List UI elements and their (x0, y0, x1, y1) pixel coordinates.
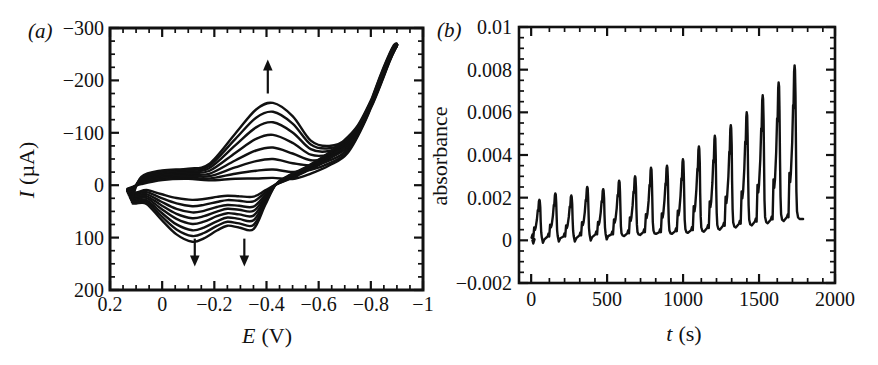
x-tick-label: −0.8 (353, 293, 389, 315)
panel-a: (a) −300−200−10001002000.20−0.2−0.4−0.6−… (14, 17, 434, 348)
x-tick-label: 0 (157, 293, 167, 315)
panel-a-cv-curves (127, 44, 397, 242)
y-tick-label: 100 (74, 227, 104, 249)
panel-b-absorbance-trace-group (532, 65, 804, 243)
growth-arrow-up-head (263, 59, 273, 70)
y-tick-label: −300 (63, 17, 104, 39)
panel-b-tag: (b) (437, 18, 462, 42)
y-tick-label: −0.002 (456, 272, 512, 294)
x-tick-label: 2000 (815, 288, 855, 310)
y-tick-label: 0 (94, 174, 104, 196)
y-tick-label: −100 (63, 122, 104, 144)
panel-a-x-axis-title: E(V) (241, 323, 292, 348)
panel-a-tick-labels: −300−200−10001002000.20−0.2−0.4−0.6−0.8−… (63, 17, 434, 315)
y-tick-label: 0.008 (467, 59, 512, 81)
absorbance-trace (532, 65, 804, 243)
growth-arrow-down-head (240, 255, 250, 266)
y-tick-label: 0.01 (477, 16, 512, 38)
panel-b: (b) 0.010.0080.0060.0040.0020−0.00205001… (427, 16, 855, 346)
panel-b-y-axis-title: absorbance (427, 107, 452, 206)
x-tick-label: −1 (412, 293, 433, 315)
x-tick-label: 1500 (739, 288, 779, 310)
y-tick-label: 0 (502, 229, 512, 251)
growth-arrow-down-head (190, 255, 200, 266)
x-tick-label: 500 (592, 288, 622, 310)
x-tick-label: −0.4 (248, 293, 284, 315)
x-tick-label: −0.6 (301, 293, 337, 315)
panel-b-tick-marks (519, 27, 835, 283)
two-panel-figure: (a) −300−200−10001002000.20−0.2−0.4−0.6−… (0, 0, 878, 365)
y-tick-label: −200 (63, 69, 104, 91)
x-tick-label: 0.2 (98, 293, 123, 315)
figure-canvas: (a) −300−200−10001002000.20−0.2−0.4−0.6−… (0, 0, 878, 365)
panel-b-frame (519, 27, 835, 283)
x-tick-label: 0 (526, 288, 536, 310)
y-tick-label: 0.006 (467, 101, 512, 123)
panel-b-x-axis-title: t(s) (666, 321, 701, 346)
y-tick-label: 0.002 (467, 187, 512, 209)
x-tick-label: 1000 (663, 288, 703, 310)
panel-a-y-axis-title: I(µA) (14, 142, 39, 200)
y-tick-label: 0.004 (467, 144, 512, 166)
x-tick-label: −0.2 (196, 293, 232, 315)
panel-a-tag: (a) (28, 19, 53, 43)
